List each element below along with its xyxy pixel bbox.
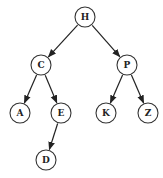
node-label: C bbox=[37, 60, 44, 70]
node-label: E bbox=[58, 108, 65, 118]
tree-node-k: K bbox=[96, 103, 116, 123]
tree-node-h: H bbox=[75, 7, 95, 27]
edge-c-e bbox=[45, 75, 57, 103]
tree-node-e: E bbox=[51, 103, 71, 123]
edge-c-a bbox=[24, 75, 36, 103]
edge-h-c bbox=[48, 25, 77, 57]
node-label: H bbox=[81, 12, 90, 22]
node-label: A bbox=[16, 108, 25, 118]
tree-node-c: C bbox=[31, 55, 51, 75]
tree-diagram: HCPAEKZD bbox=[0, 0, 163, 178]
edge-p-k bbox=[110, 75, 122, 103]
tree-node-a: A bbox=[10, 103, 30, 123]
edge-p-z bbox=[131, 75, 143, 103]
tree-node-p: P bbox=[117, 55, 137, 75]
node-label: P bbox=[124, 60, 131, 70]
tree-node-z: Z bbox=[138, 103, 158, 123]
edge-h-p bbox=[92, 25, 120, 56]
nodes-group: HCPAEKZD bbox=[10, 7, 158, 170]
edges-group bbox=[24, 25, 143, 149]
edge-e-d bbox=[49, 123, 57, 149]
node-label: K bbox=[102, 108, 111, 118]
node-label: D bbox=[42, 155, 50, 165]
node-label: Z bbox=[145, 108, 152, 118]
tree-node-d: D bbox=[36, 150, 56, 170]
